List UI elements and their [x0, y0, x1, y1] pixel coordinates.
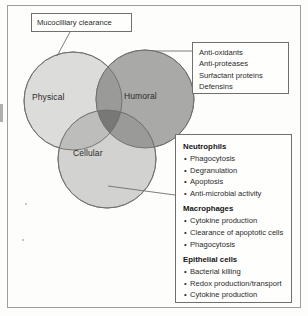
callout-box-cellular: Neutrophils •Phagocytosis •Degranulation… [175, 134, 292, 303]
venn-label-humoral: Humoral [124, 91, 157, 101]
list-item-label: Anti-microbial activity [190, 189, 261, 198]
group-heading-epithelial-cells: Epithelial cells [183, 254, 291, 266]
list-item-label: Cytokine production [190, 216, 257, 225]
venn-label-physical: Physical [32, 92, 64, 102]
list-item-label: Cytokine production [190, 290, 257, 299]
list-item: •Clearance of apoptotic cells [183, 227, 291, 239]
list-item: •Bacterial killing [183, 266, 291, 278]
list-item: •Apoptosis [183, 176, 291, 188]
list-item-label: Clearance of apoptotic cells [190, 228, 283, 237]
list-item: •Redox production/transport [183, 278, 291, 290]
list-item: •Cytokine production [183, 215, 291, 227]
callout-box-mucociliary: Mucocilliary clearance [31, 13, 132, 32]
group-heading-neutrophils: Neutrophils [183, 141, 291, 153]
callout-humoral-item: Surfactant proteins [199, 70, 288, 81]
list-item: •Phagocytosis [183, 239, 291, 251]
callout-group-epithelial-cells: Epithelial cells •Bacterial killing •Red… [183, 254, 291, 301]
list-item: •Anti-microbial activity [183, 188, 291, 200]
list-item-label: Bacterial killing [190, 267, 241, 276]
callout-box-humoral: Anti-oxidants Anti-proteases Surfactant … [192, 42, 289, 94]
list-item-label: Redox production/transport [190, 279, 282, 288]
callout-group-macrophages: Macrophages •Cytokine production •Cleara… [183, 203, 291, 250]
list-item: •Phagocytosis [183, 153, 291, 165]
list-item-label: Phagocytosis [190, 240, 235, 249]
callout-humoral-item: Anti-oxidants [199, 47, 288, 58]
callout-mucociliary-text: Mucocilliary clearance [37, 18, 131, 28]
list-item: •Cytokine production [183, 289, 291, 301]
callout-humoral-item: Anti-proteases [199, 58, 288, 69]
list-item: •Degranulation [183, 165, 291, 177]
callout-group-neutrophils: Neutrophils •Phagocytosis •Degranulation… [183, 141, 291, 199]
list-item-label: Phagocytosis [190, 154, 235, 163]
figure-canvas: Physical Humoral Cellular Mucocilliary c… [0, 0, 308, 316]
callout-humoral-item: Defensins [199, 81, 288, 92]
list-item-label: Apoptosis [190, 177, 223, 186]
group-heading-macrophages: Macrophages [183, 203, 291, 215]
venn-label-cellular: Cellular [73, 148, 103, 158]
list-item-label: Degranulation [190, 166, 237, 175]
